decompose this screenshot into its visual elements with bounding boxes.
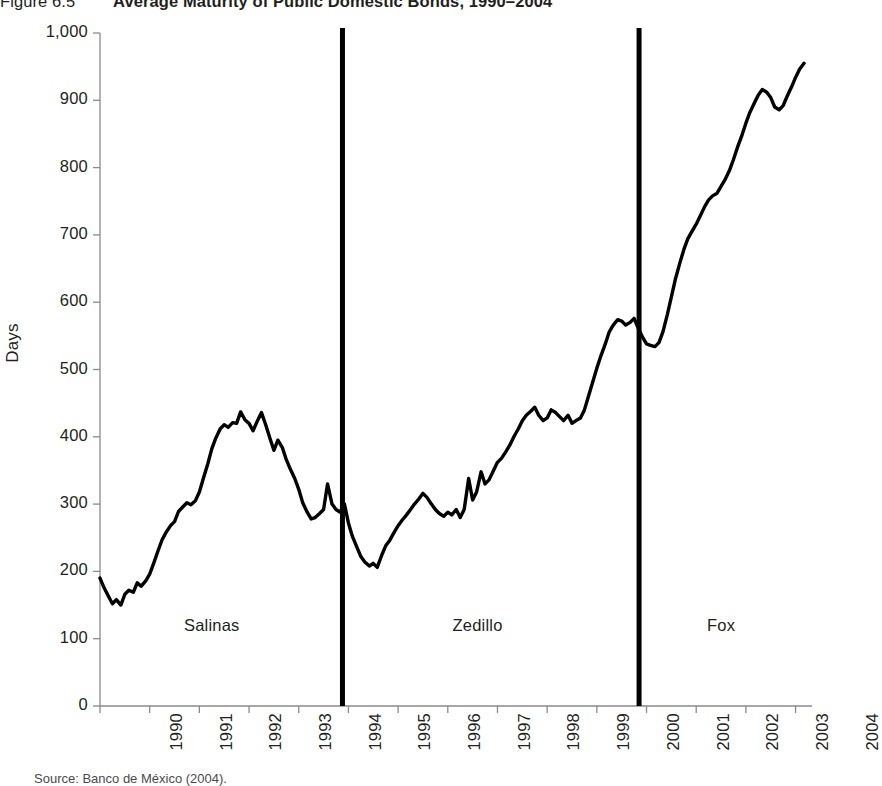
y-tick-label: 400 [14, 426, 88, 445]
era-label: Salinas [152, 616, 272, 635]
x-tick-label: 1994 [366, 713, 385, 771]
x-tick-label: 2003 [813, 713, 832, 771]
era-label: Fox [661, 616, 781, 635]
y-tick-label: 500 [14, 359, 88, 378]
x-tick-label: 1996 [465, 713, 484, 771]
x-tick-label: 2004 [863, 713, 882, 771]
x-tick-label: 1997 [515, 713, 534, 771]
x-tick-label: 2000 [664, 713, 683, 771]
source-note: Source: Banco de México (2004). [34, 771, 227, 786]
x-tick-label: 1999 [614, 713, 633, 771]
x-tick-label: 1993 [316, 713, 335, 771]
y-tick-label: 700 [14, 224, 88, 243]
y-tick-label: 0 [14, 695, 88, 714]
x-tick-label: 1992 [266, 713, 285, 771]
data-line [100, 63, 804, 605]
x-tick-label: 1995 [415, 713, 434, 771]
x-tick-label: 2001 [714, 713, 733, 771]
y-tick-label: 100 [14, 628, 88, 647]
y-tick-label: 900 [14, 89, 88, 108]
y-tick-label: 1,000 [14, 22, 88, 41]
x-tick-label: 1991 [217, 713, 236, 771]
x-tick-label: 2002 [763, 713, 782, 771]
y-tick-label: 600 [14, 291, 88, 310]
y-tick-label: 200 [14, 560, 88, 579]
y-tick-label: 300 [14, 493, 88, 512]
era-label: Zedillo [418, 616, 538, 635]
x-tick-label: 1998 [564, 713, 583, 771]
x-tick-label: 1990 [167, 713, 186, 771]
y-tick-label: 800 [14, 157, 88, 176]
